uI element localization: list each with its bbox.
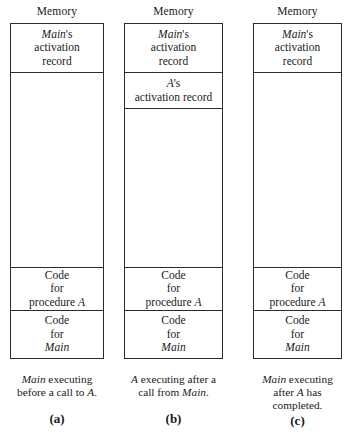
code-main-line-1: Code	[285, 314, 309, 327]
possessive-s: 's	[306, 28, 313, 40]
segment-a-activation-record-b: A's activation record	[125, 73, 222, 109]
caption-c-line-2: after A has	[249, 386, 346, 399]
caption-c-executing: executing	[286, 373, 333, 385]
caption-b-executing: executing after a	[138, 373, 216, 385]
code-a-line-3: procedure A	[270, 296, 326, 309]
a-identifier: A	[318, 296, 325, 308]
segment-code-procedure-a-b: Code for procedure A	[125, 268, 222, 311]
code-a-line-3: procedure A	[146, 296, 202, 309]
code-main-line-1: Code	[161, 314, 185, 327]
segment-free-memory-c	[254, 73, 341, 268]
code-main-line-3: Main	[45, 341, 69, 354]
code-a-line-1: Code	[45, 269, 69, 282]
possessive-s: 's	[182, 28, 189, 40]
caption-c-after: after	[273, 386, 297, 398]
code-main-line-3: Main	[161, 341, 185, 354]
main-activation-line-3: record	[283, 55, 312, 68]
code-main-line-3: Main	[285, 341, 309, 354]
caption-c-a: A	[297, 386, 304, 398]
caption-a-line-1: Main executing	[6, 373, 108, 386]
code-a-line-1: Code	[285, 269, 309, 282]
memory-box-a: Main's activation record Code for proced…	[10, 23, 104, 359]
code-a-line-1: Code	[161, 269, 185, 282]
code-main-line-2: for	[291, 328, 304, 341]
procedure-word: procedure	[270, 296, 316, 308]
main-identifier: Main	[282, 28, 306, 40]
a-identifier: A	[194, 296, 201, 308]
memory-label-a: Memory	[10, 5, 104, 18]
caption-b-call-from: call from	[138, 386, 182, 398]
main-activation-line-1: Main's	[158, 28, 189, 41]
caption-a-executing: executing	[46, 373, 93, 385]
code-a-line-3: procedure A	[29, 296, 85, 309]
possessive-s: 's	[174, 77, 181, 89]
memory-panel-c: Memory Main's activation record Code for…	[253, 0, 342, 438]
figure-label-b: (b)	[124, 411, 223, 426]
segment-code-main-a: Code for Main	[11, 311, 103, 358]
main-activation-line-2: activation	[151, 41, 196, 54]
a-identifier: A	[78, 296, 85, 308]
main-activation-line-2: activation	[275, 41, 320, 54]
main-activation-line-1: Main's	[42, 28, 73, 41]
caption-c-line-1: Main executing	[249, 373, 346, 386]
segment-code-main-b: Code for Main	[125, 311, 222, 358]
possessive-s: 's	[66, 28, 73, 40]
caption-a: Main executing before a call to A.	[6, 373, 108, 399]
caption-a-period: .	[94, 386, 97, 398]
procedure-word: procedure	[146, 296, 192, 308]
caption-b-a: A	[131, 373, 138, 385]
memory-label-b: Memory	[124, 5, 223, 18]
main-activation-line-3: record	[42, 55, 71, 68]
main-activation-line-3: record	[159, 55, 188, 68]
a-activation-line-1: A's	[167, 77, 181, 90]
caption-b-period: .	[206, 386, 209, 398]
code-main-line-2: for	[50, 328, 63, 341]
memory-box-b: Main's activation record A's activation …	[124, 23, 223, 359]
figure-label-a: (a)	[10, 411, 104, 426]
caption-c-main: Main	[262, 373, 286, 385]
code-a-line-2: for	[50, 282, 63, 295]
caption-b-line-1: A executing after a	[120, 373, 227, 386]
segment-free-memory-a	[11, 73, 103, 268]
segment-free-memory-b	[125, 109, 222, 268]
memory-box-c: Main's activation record Code for proced…	[253, 23, 342, 359]
caption-c-has: has	[304, 386, 322, 398]
main-identifier: Main	[42, 28, 66, 40]
code-a-line-2: for	[291, 282, 304, 295]
segment-main-activation-record-c: Main's activation record	[254, 24, 341, 73]
segment-code-procedure-a-c: Code for procedure A	[254, 268, 341, 311]
caption-c-line-3: completed.	[249, 399, 346, 412]
caption-b-line-2: call from Main.	[120, 386, 227, 399]
segment-main-activation-record-a: Main's activation record	[11, 24, 103, 73]
memory-label-c: Memory	[253, 5, 342, 18]
segment-code-main-c: Code for Main	[254, 311, 341, 358]
caption-a-before: before a call to	[17, 386, 87, 398]
memory-panel-a: Memory Main's activation record Code for…	[10, 0, 104, 438]
main-identifier: Main	[158, 28, 182, 40]
caption-a-line-2: before a call to A.	[6, 386, 108, 399]
a-identifier: A	[167, 77, 174, 89]
caption-a-main: Main	[22, 373, 46, 385]
caption-b-main: Main	[182, 386, 206, 398]
code-main-line-1: Code	[45, 314, 69, 327]
code-main-line-2: for	[167, 328, 180, 341]
a-activation-line-2: activation record	[135, 91, 213, 104]
main-activation-line-2: activation	[34, 41, 79, 54]
procedure-word: procedure	[29, 296, 75, 308]
segment-code-procedure-a-a: Code for procedure A	[11, 268, 103, 311]
caption-b: A executing after a call from Main.	[120, 373, 227, 399]
caption-c: Main executing after A has completed.	[249, 373, 346, 413]
segment-main-activation-record-b: Main's activation record	[125, 24, 222, 73]
figure-label-c: (c)	[253, 413, 342, 428]
code-a-line-2: for	[167, 282, 180, 295]
memory-panel-b: Memory Main's activation record A's acti…	[124, 0, 223, 438]
main-activation-line-1: Main's	[282, 28, 313, 41]
